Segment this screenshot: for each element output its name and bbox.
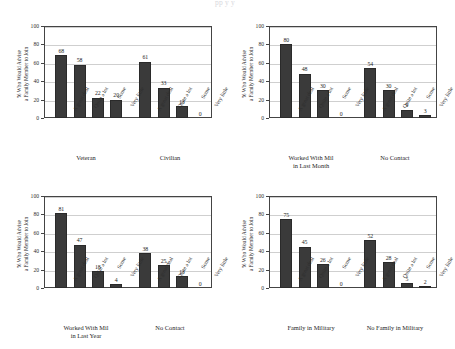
y-axis-tick-label: 20 (258, 97, 264, 103)
axis-tick (266, 81, 269, 82)
axis-tick (41, 44, 44, 45)
y-axis-tick-label: 20 (33, 267, 39, 273)
y-axis-tick-label: 60 (258, 60, 264, 66)
axis-tick (41, 26, 44, 27)
axis-tick (41, 214, 44, 215)
y-axis-tick-label: 40 (258, 78, 264, 84)
y-axis-tick-label: 80 (258, 211, 264, 217)
y-axis-tick-label: 100 (256, 23, 264, 29)
y-axis-tick-label: 40 (33, 248, 39, 254)
group-label: No Family in Military (353, 324, 437, 332)
group-label: No Contact (353, 154, 437, 162)
y-axis-tick-label: 0 (36, 285, 39, 291)
y-axis-tick-label: 0 (36, 115, 39, 121)
group-label: Worked With Milin Last Month (269, 154, 353, 170)
gridline (270, 27, 436, 28)
group-labels: VeteranCivilian (44, 154, 212, 178)
y-axis-tick-label: 40 (33, 78, 39, 84)
gridline (45, 64, 211, 65)
axis-tick (266, 270, 269, 271)
axis-tick (266, 44, 269, 45)
group-label: Veteran (44, 154, 128, 162)
y-axis-tick-label: 80 (33, 211, 39, 217)
axis-tick (266, 118, 269, 119)
y-axis-tick-label: 60 (33, 230, 39, 236)
axis-tick (41, 251, 44, 252)
y-axis-tick-label: 60 (33, 60, 39, 66)
group-label-line-1: Worked With Mil (289, 154, 334, 161)
category-labels: A great dealQuite a lotSomeVery littleA … (269, 290, 437, 324)
axis-tick (266, 233, 269, 234)
gridline (45, 27, 211, 28)
y-axis-tick-label: 0 (261, 285, 264, 291)
y-axis-label: % Who Would Advisea Family Member to Joi… (12, 196, 26, 292)
y-axis-label-line-2: a Family Member to Join (19, 26, 33, 122)
axis-tick (266, 26, 269, 27)
y-axis-tick-label: 80 (258, 41, 264, 47)
axis-tick (266, 63, 269, 64)
y-axis-tick-label: 40 (258, 248, 264, 254)
group-labels: Family in MilitaryNo Family in Military (269, 324, 437, 348)
panel-grid: % Who Would Advisea Family Member to Joi… (0, 8, 450, 349)
y-axis-tick-label: 100 (31, 23, 39, 29)
group-label-line-1: Civilian (160, 154, 181, 161)
y-axis-label-line-2: a Family Member to Join (19, 196, 33, 292)
group-label: No Contact (128, 324, 212, 332)
axis-tick (266, 196, 269, 197)
gridline (45, 252, 211, 253)
gridline (45, 82, 211, 83)
axis-tick (41, 233, 44, 234)
y-axis-label-line-2: a Family Member to Join (244, 196, 258, 292)
group-label-line-1: No Contact (380, 154, 409, 161)
y-axis-tick-label: 100 (31, 193, 39, 199)
axis-tick (41, 196, 44, 197)
panel-top-right: % Who Would Advisea Family Member to Joi… (225, 8, 450, 178)
y-axis-label: % Who Would Advisea Family Member to Joi… (237, 196, 251, 292)
axis-tick (41, 118, 44, 119)
axis-tick (266, 251, 269, 252)
group-label-line-1: Worked With Mil (64, 324, 109, 331)
axis-tick (41, 100, 44, 101)
y-axis-tick-label: 0 (261, 115, 264, 121)
y-axis-label: % Who Would Advisea Family Member to Joi… (237, 26, 251, 122)
gridline (45, 234, 211, 235)
y-axis-tick-label: 100 (256, 193, 264, 199)
axis-tick (41, 81, 44, 82)
panel-bottom-left: % Who Would Advisea Family Member to Joi… (0, 178, 225, 349)
gridline (270, 197, 436, 198)
axis-tick (41, 270, 44, 271)
gridline (270, 45, 436, 46)
gridline (45, 197, 211, 198)
gridline (270, 215, 436, 216)
gridline (270, 234, 436, 235)
group-labels: Worked With Milin Last MonthNo Contact (269, 154, 437, 178)
panel-top-left: % Who Would Advisea Family Member to Joi… (0, 8, 225, 178)
y-axis-label: % Who Would Advisea Family Member to Joi… (12, 26, 26, 122)
axis-tick (266, 214, 269, 215)
group-label-line-2: in Last Year (44, 332, 128, 340)
group-label-line-1: Veteran (76, 154, 96, 161)
axis-tick (266, 288, 269, 289)
group-label-line-1: No Family in Military (367, 324, 424, 331)
faint-header-text: pp y y (0, 0, 450, 7)
group-label-line-1: No Contact (155, 324, 184, 331)
group-label-line-2: in Last Month (269, 162, 353, 170)
category-labels: A great dealQuite a lotSomeVery littleA … (44, 120, 212, 154)
y-axis-tick-label: 60 (258, 230, 264, 236)
y-axis-tick-label: 80 (33, 41, 39, 47)
gridline (45, 45, 211, 46)
group-label-line-1: Family in Military (287, 324, 334, 331)
group-labels: Worked With Milin Last YearNo Contact (44, 324, 212, 348)
axis-tick (266, 100, 269, 101)
gridline (45, 215, 211, 216)
y-axis-tick-label: 20 (33, 97, 39, 103)
gridline (270, 252, 436, 253)
group-label: Family in Military (269, 324, 353, 332)
y-axis-label-line-2: a Family Member to Join (244, 26, 258, 122)
category-labels: A great dealQuite a lotSomeVery littleA … (44, 290, 212, 324)
category-labels: A great dealQuite a lotSomeVery littleA … (269, 120, 437, 154)
group-label: Civilian (128, 154, 212, 162)
group-label: Worked With Milin Last Year (44, 324, 128, 340)
gridline (270, 64, 436, 65)
